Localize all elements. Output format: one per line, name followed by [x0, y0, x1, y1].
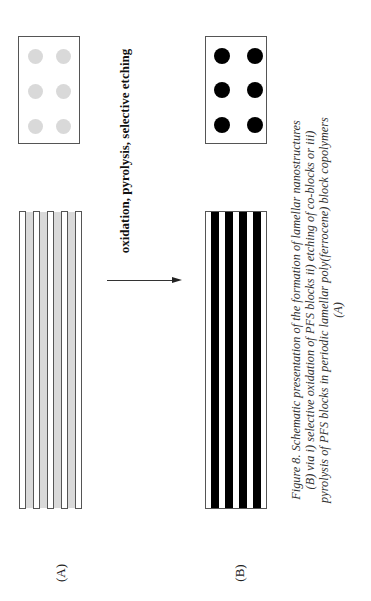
process-label: oxidation, pyrolysis, selective etching — [117, 49, 133, 254]
product-domain-dot — [214, 48, 230, 64]
product-domain-dot — [247, 48, 263, 64]
caption-line-1: Figure 8. Schematic presentation of the … — [289, 120, 304, 500]
white-lamella — [33, 211, 40, 509]
caption-line-3: pyrolysis of PFS blocks in periodic lame… — [317, 117, 332, 503]
panel-a-top-view — [18, 36, 80, 144]
black-lamella — [253, 212, 261, 508]
panel-b-lamellae — [205, 211, 267, 509]
product-domain-dot — [247, 117, 263, 133]
gray-lamella — [39, 212, 47, 508]
precursor-domain-dot — [56, 84, 71, 99]
precursor-domain-dot — [28, 119, 43, 134]
arrow-head-icon — [172, 277, 182, 283]
precursor-domain-dot — [56, 49, 71, 64]
precursor-domain-dot — [28, 84, 43, 99]
precursor-domain-dot — [56, 119, 71, 134]
white-lamella — [19, 211, 26, 509]
gray-lamella — [25, 212, 33, 508]
gray-lamella — [53, 212, 61, 508]
caption-line-2: (B) via i) selective oxidation of PFS bl… — [303, 131, 318, 490]
reaction-arrow — [107, 280, 173, 281]
gray-lamella — [67, 212, 75, 508]
panel-label-a: (A) — [53, 564, 69, 582]
black-lamella — [225, 212, 233, 508]
panel-a-lamellae — [19, 211, 82, 509]
white-lamella — [47, 211, 54, 509]
product-domain-dot — [214, 82, 230, 98]
panel-b-top-view — [205, 36, 267, 144]
product-domain-dot — [247, 82, 263, 98]
white-lamella — [61, 211, 68, 509]
panel-label-b: (B) — [232, 564, 248, 581]
black-lamella — [211, 212, 219, 508]
caption-line-4: (A) — [331, 302, 346, 318]
precursor-domain-dot — [28, 49, 43, 64]
white-lamella — [75, 211, 82, 509]
black-lamella — [239, 212, 247, 508]
product-domain-dot — [214, 117, 230, 133]
